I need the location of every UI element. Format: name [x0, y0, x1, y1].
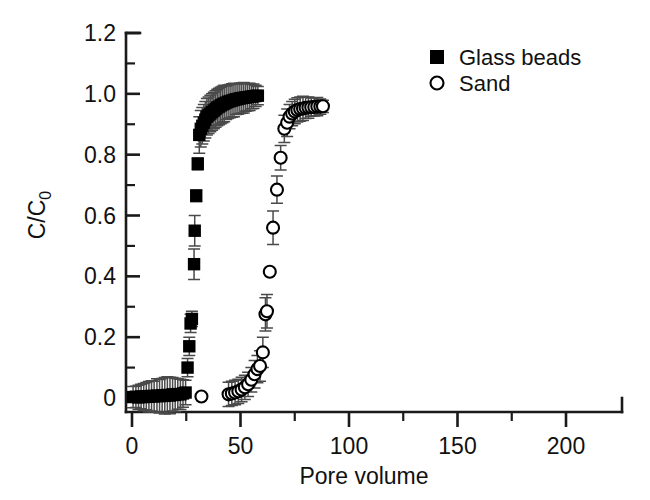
- y-tick-label: 0.8: [84, 142, 116, 168]
- legend-marker-open-circle: [431, 77, 444, 90]
- data-point-square: [192, 158, 204, 170]
- data-point-square: [181, 361, 193, 373]
- y-axis-title: C/C0: [24, 191, 54, 240]
- data-point-square: [179, 386, 191, 398]
- error-bars-group: [223, 96, 329, 406]
- data-series-layer: [127, 83, 329, 415]
- y-tick-label: 0.4: [84, 263, 116, 289]
- y-tick-label: 0: [103, 385, 116, 411]
- data-point-circle: [271, 184, 283, 196]
- data-point-circle: [275, 152, 287, 164]
- x-tick-label: 200: [547, 433, 585, 459]
- legend-marker-filled-square: [430, 50, 444, 64]
- x-tick-label: 100: [330, 433, 368, 459]
- data-point-circle: [195, 390, 207, 402]
- x-axis-title: Pore volume: [299, 463, 428, 489]
- data-series-sand: [195, 96, 329, 406]
- data-point-square: [186, 313, 198, 325]
- data-point-square: [189, 225, 201, 237]
- data-point-circle: [317, 100, 329, 112]
- y-tick-label: 1.0: [84, 81, 116, 107]
- y-tick-label: 1.2: [84, 20, 116, 46]
- data-point-square: [188, 258, 200, 270]
- data-point-square: [183, 340, 195, 352]
- y-tick-label: 0.6: [84, 203, 116, 229]
- data-point-square: [252, 89, 264, 101]
- markers-group: [195, 100, 329, 402]
- data-point-circle: [254, 360, 266, 372]
- legend-label: Sand: [459, 71, 510, 96]
- data-point-circle: [261, 305, 273, 317]
- data-point-square: [190, 190, 202, 202]
- data-point-circle: [267, 222, 279, 234]
- chart-legend: Glass beadsSand: [430, 45, 581, 96]
- x-tick-label: 50: [228, 433, 254, 459]
- data-point-circle: [257, 346, 269, 358]
- y-tick-label: 0.2: [84, 324, 116, 350]
- scatter-plot-canvas: 00.20.40.60.81.01.2050100150200 Glass be…: [0, 0, 650, 500]
- data-series-glass-beads: [127, 83, 264, 415]
- data-point-circle: [264, 266, 276, 278]
- x-tick-label: 0: [126, 433, 139, 459]
- chart-figure: 00.20.40.60.81.01.2050100150200 Glass be…: [0, 0, 650, 500]
- legend-label: Glass beads: [459, 45, 581, 70]
- x-tick-label: 150: [438, 433, 476, 459]
